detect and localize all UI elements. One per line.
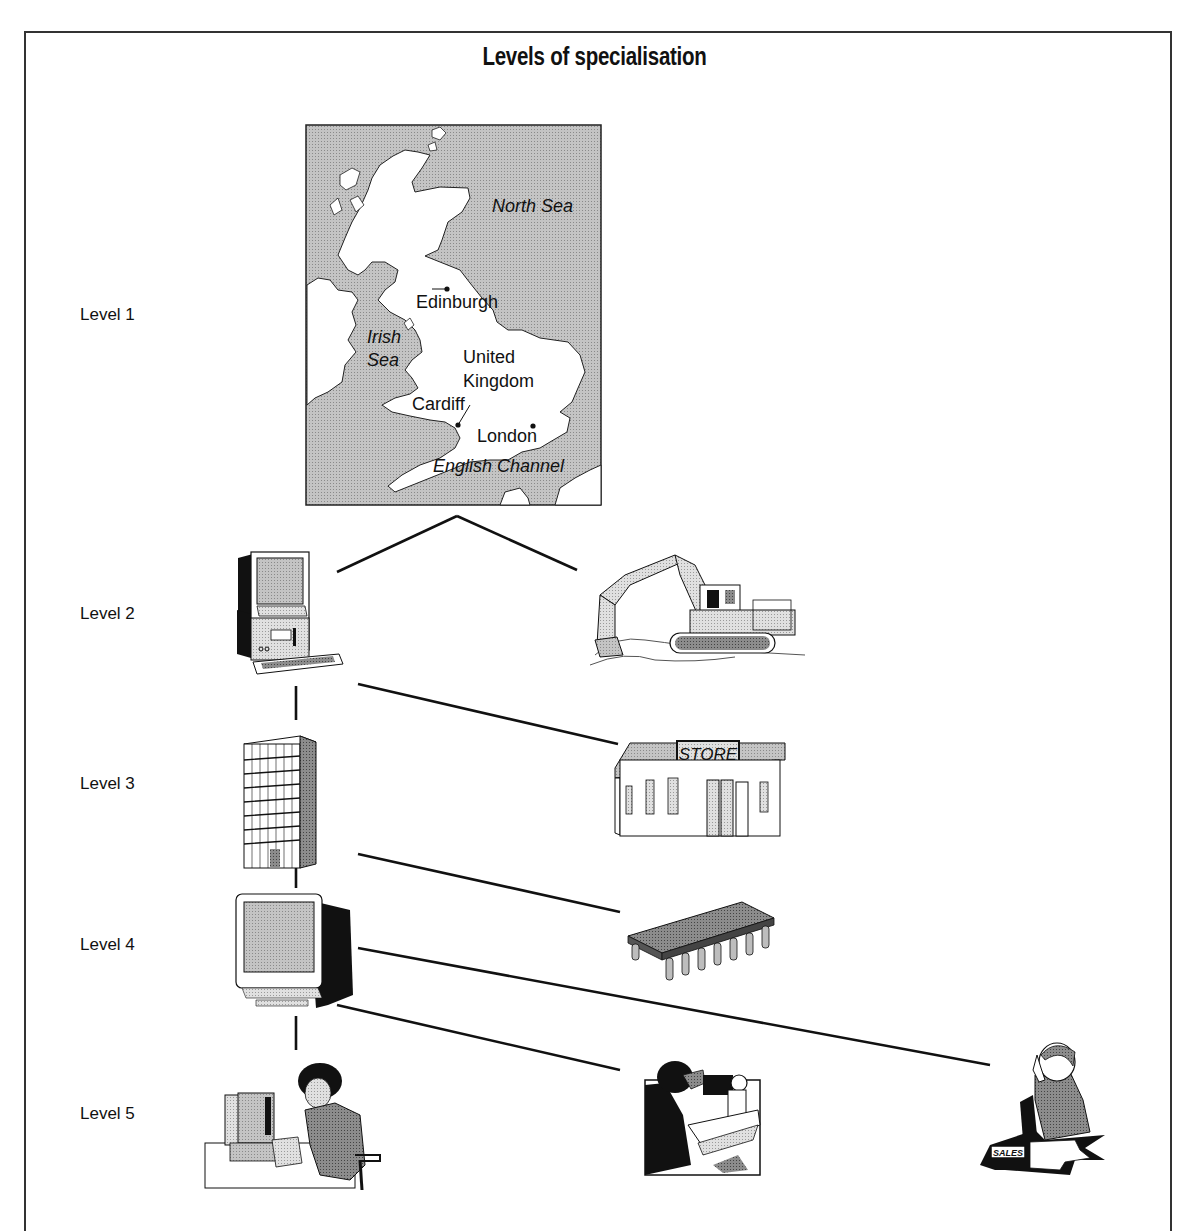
connector-map-to-excavator [457, 516, 577, 570]
office-worker-illustration [205, 1063, 380, 1190]
uk-map: North Sea Edinburgh Irish Sea United Kin… [306, 125, 601, 505]
connector-computer-to-store [358, 684, 618, 744]
united-kingdom-label-line1: United [463, 347, 515, 367]
sales-telephonist-illustration: SALES [980, 1043, 1105, 1175]
irish-sea-label-line1: Irish [367, 327, 401, 347]
excavator-illustration [590, 555, 805, 665]
office-building-illustration [244, 736, 316, 868]
technician-microscope-illustration [645, 1061, 760, 1175]
store-illustration: STORE [615, 741, 785, 836]
sales-sign-text: SALES [993, 1148, 1023, 1158]
connector-monitor-to-technician [337, 1005, 620, 1070]
microchip-illustration [628, 902, 774, 980]
london-label: London [477, 426, 537, 446]
connector-map-to-computer [337, 516, 457, 572]
desktop-computer-illustration [237, 552, 343, 674]
connector-building-to-chip [358, 854, 620, 912]
united-kingdom-label-line2: Kingdom [463, 371, 534, 391]
cardiff-label: Cardiff [412, 394, 466, 414]
crt-monitor-illustration [236, 894, 353, 1008]
north-sea-label: North Sea [492, 196, 573, 216]
english-channel-label: English Channel [433, 456, 565, 476]
connector-monitor-to-sales [358, 948, 990, 1065]
irish-sea-label-line2: Sea [367, 350, 399, 370]
edinburgh-label: Edinburgh [416, 292, 498, 312]
